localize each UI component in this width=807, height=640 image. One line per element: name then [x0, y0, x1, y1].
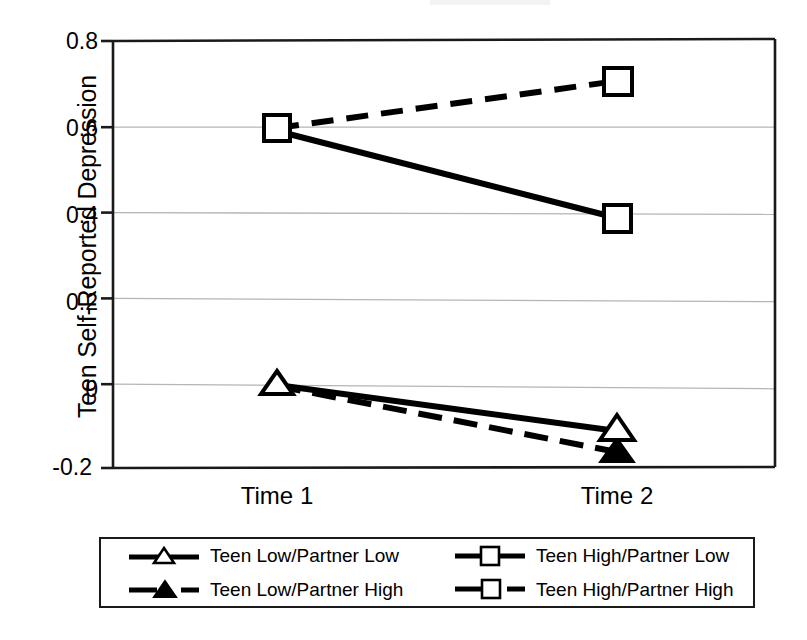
- series-teen-low-partner-high: [261, 371, 634, 462]
- open-square-icon: [453, 543, 527, 569]
- open-square-icon: [453, 576, 527, 602]
- legend-entry-teen-low-partner-low: Teen Low/Partner Low: [101, 539, 427, 573]
- legend-label: Teen High/Partner High: [536, 580, 734, 599]
- legend-label: Teen Low/Partner Low: [210, 546, 399, 565]
- legend-entry-teen-high-partner-high: Teen High/Partner High: [427, 573, 753, 607]
- legend-label: Teen Low/Partner High: [210, 580, 403, 599]
- marker-open-triangle: [261, 371, 293, 394]
- marker-open-square: [604, 68, 632, 95]
- legend-label: Teen High/Partner Low: [536, 546, 729, 565]
- series-teen-high-partner-high: [264, 68, 632, 141]
- legend: Teen Low/Partner Low Teen High/Partner L…: [99, 537, 755, 608]
- y-tick-marks: [101, 41, 113, 468]
- plot-area: [0, 0, 807, 520]
- legend-entry-teen-high-partner-low: Teen High/Partner Low: [427, 539, 753, 573]
- marker-open-square: [604, 205, 631, 232]
- line-chart-figure: Teen Self-Reported Depression 0.8 0.6 0.…: [0, 0, 807, 640]
- filled-triangle-icon: [127, 576, 201, 602]
- gridlines: [113, 127, 775, 389]
- legend-entry-teen-low-partner-high: Teen Low/Partner High: [101, 573, 427, 607]
- series-teen-low-partner-low: [261, 371, 634, 440]
- marker-open-square: [264, 115, 290, 141]
- plot-frame: [113, 39, 775, 468]
- open-triangle-icon: [127, 543, 201, 569]
